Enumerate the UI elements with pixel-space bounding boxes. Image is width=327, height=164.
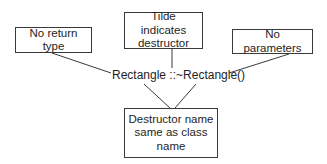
connector-return — [52, 53, 111, 73]
destructor-diagram: No return type Tilde indicates destructo… — [0, 0, 327, 164]
connector-name-right — [175, 84, 196, 108]
callout-tilde-indicates-destructor: Tilde indicates destructor — [124, 12, 203, 49]
callout-text-line: name — [128, 140, 213, 154]
connector-name-left — [144, 84, 170, 108]
destructor-signature: Rectangle ::~Rectangle() — [112, 67, 230, 83]
callout-no-parameters: No parameters — [232, 29, 313, 54]
callout-text-line: No return type — [19, 27, 88, 54]
callout-destructor-name: Destructor name same as class name — [124, 108, 218, 158]
callout-text-line: No parameters — [236, 28, 309, 55]
callout-text-line: Destructor name — [128, 113, 213, 127]
callout-text-line: same as class — [128, 126, 213, 140]
callout-no-return-type: No return type — [15, 27, 92, 53]
callout-text-line: destructor — [128, 37, 199, 51]
callout-text-line: Tilde indicates — [128, 10, 199, 37]
